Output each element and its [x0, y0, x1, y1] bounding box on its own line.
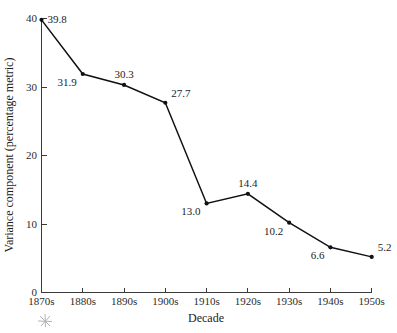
data-point-marker — [328, 245, 332, 249]
x-tick-label-1950s: 1950s — [359, 295, 385, 307]
data-point-marker — [122, 83, 126, 87]
x-tick-label-1940s: 1940s — [317, 295, 343, 307]
data-point-labels: 39.831.930.327.713.014.410.26.65.2 — [48, 13, 392, 261]
data-point-marker — [205, 201, 209, 205]
y-axis-title: Variance component (percentage metric) — [2, 58, 16, 253]
x-tick-label-1900s: 1900s — [152, 295, 178, 307]
y-tick-label-20: 20 — [26, 149, 38, 161]
data-point-value-label: 10.2 — [264, 225, 283, 237]
data-point-value-label: 31.9 — [58, 76, 78, 88]
data-point-value-label: 30.3 — [114, 68, 134, 80]
x-tick-label-1930s: 1930s — [276, 295, 302, 307]
scan-artifact-mark — [38, 314, 52, 327]
x-axis-title: Decade — [188, 311, 224, 325]
y-axis-ticks: 0 10 20 30 40 — [26, 12, 47, 298]
data-point-value-label: 13.0 — [181, 205, 201, 217]
y-tick-label-40: 40 — [26, 12, 38, 24]
line-chart-plot: 0 10 20 30 40 1870s 1880s 1890s 1900s 19… — [0, 0, 397, 333]
data-point-value-label: 5.2 — [378, 241, 392, 253]
data-point-marker — [81, 72, 85, 76]
data-point-markers — [39, 18, 373, 259]
data-point-marker — [163, 101, 167, 105]
x-tick-label-1890s: 1890s — [111, 295, 137, 307]
x-tick-label-1870s: 1870s — [28, 295, 54, 307]
x-tick-label-1920s: 1920s — [235, 295, 261, 307]
data-point-value-label: 27.7 — [171, 87, 191, 99]
data-point-value-label: 6.6 — [311, 249, 325, 261]
data-point-marker — [370, 255, 374, 259]
x-tick-label-1880s: 1880s — [70, 295, 96, 307]
x-axis-ticks: 1870s 1880s 1890s 1900s 1910s 1920s 1930… — [28, 288, 384, 308]
data-point-marker — [287, 221, 291, 225]
data-point-marker — [39, 18, 43, 22]
data-series-line — [42, 20, 372, 257]
x-tick-label-1910s: 1910s — [193, 295, 219, 307]
y-tick-label-10: 10 — [26, 218, 38, 230]
data-point-value-label: 39.8 — [48, 13, 68, 25]
chart-figure: 0 10 20 30 40 1870s 1880s 1890s 1900s 19… — [0, 0, 397, 333]
y-tick-label-30: 30 — [26, 81, 38, 93]
data-point-value-label: 14.4 — [238, 177, 258, 189]
data-point-marker — [246, 192, 250, 196]
